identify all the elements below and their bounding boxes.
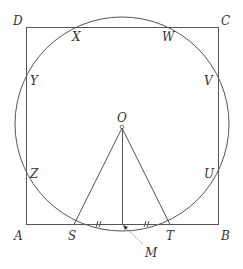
label-w: W	[162, 30, 176, 44]
label-b: B	[220, 229, 230, 243]
label-t: T	[166, 229, 175, 243]
label-d: D	[12, 14, 23, 28]
geometry-diagram: D C X W Y V O Z U A S T B M	[0, 0, 243, 269]
label-x: X	[71, 30, 81, 44]
label-o: O	[117, 111, 127, 125]
label-c: C	[221, 14, 230, 28]
label-v: V	[204, 74, 214, 88]
segment-os	[74, 128, 122, 225]
label-z: Z	[29, 167, 39, 181]
segment-ot	[122, 128, 170, 225]
label-m: M	[144, 246, 158, 260]
label-u: U	[204, 167, 215, 181]
label-s: S	[68, 229, 76, 243]
label-a: A	[13, 229, 23, 243]
label-y: Y	[30, 74, 39, 88]
